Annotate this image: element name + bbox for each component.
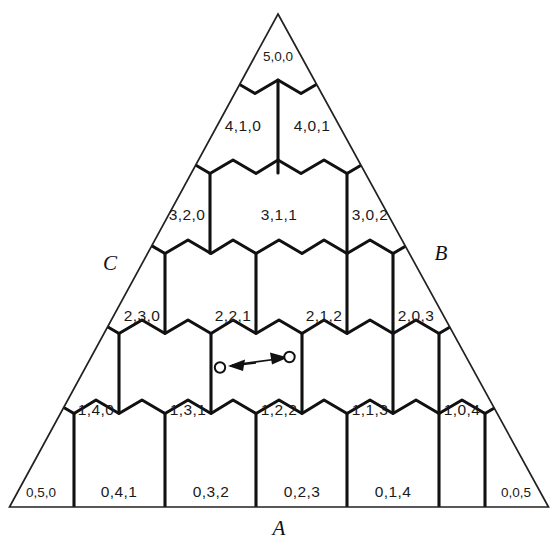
cell-label-1-1-3: 1,1,3 [352,401,388,418]
cell-label-0-1-4: 0,1,4 [375,483,411,500]
cell-label-0-2-3: 0,2,3 [284,483,320,500]
cell-label-3-0-2: 3,0,2 [352,206,388,223]
cell-label-0-0-5: 0,0,5 [501,485,531,500]
cell-label-0-3-2: 0,3,2 [193,483,229,500]
cell-label-2-0-3: 2,0,3 [398,307,434,324]
ternary-diagram-figure: 5,0,0 4,1,0 4,0,1 3,2,0 3,1,1 3,0,2 2,3,… [0,0,555,550]
state-circle-left [215,362,225,372]
cell-label-0-5-0: 0,5,0 [26,485,56,500]
cell-label-4-0-1: 4,0,1 [294,117,330,134]
cell-label-4-1-0: 4,1,0 [225,117,261,134]
cell-label-3-1-1: 3,1,1 [261,206,297,223]
vertex-label-a: A [271,516,286,540]
cell-label-0-4-1: 0,4,1 [101,483,137,500]
cell-label-2-2-1: 2,2,1 [215,307,251,324]
vertex-label-b: B [435,241,448,265]
cell-label-3-2-0: 3,2,0 [169,206,205,223]
cell-label-1-3-1: 1,3,1 [170,401,206,418]
cell-label-5-0-0: 5,0,0 [263,49,293,64]
cell-label-2-3-0: 2,3,0 [124,307,160,324]
cell-label-1-4-0: 1,4,0 [78,401,114,418]
cell-label-2-1-2: 2,1,2 [306,307,342,324]
cell-label-1-0-4: 1,0,4 [444,401,480,418]
ternary-diagram-svg: 5,0,0 4,1,0 4,0,1 3,2,0 3,1,1 3,0,2 2,3,… [0,0,555,550]
vertex-label-c: C [103,251,118,275]
state-circle-right [284,352,294,362]
cell-label-1-2-2: 1,2,2 [261,401,297,418]
